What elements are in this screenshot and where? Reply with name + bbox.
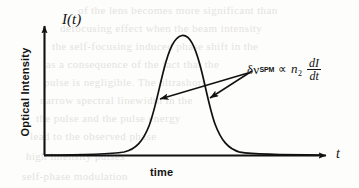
y-axis-symbol-label: I(t) xyxy=(62,11,81,28)
n2-term: n2 xyxy=(291,61,302,78)
delta-nu-symbol: δν xyxy=(247,62,259,78)
n-subscript: 2 xyxy=(298,69,302,78)
x-axis-symbol-label: t xyxy=(336,146,340,162)
annotation-arrow-left xyxy=(160,73,248,99)
pulse-curve xyxy=(46,35,322,155)
plot-graphics xyxy=(0,0,359,188)
fraction-denominator: dt xyxy=(307,70,320,82)
spm-formula-annotation: δνSPM ∝ n2 dI dt xyxy=(247,57,321,82)
proportional-symbol: ∝ xyxy=(278,62,287,77)
spm-subscript: SPM xyxy=(260,66,275,73)
derivative-fraction: dI dt xyxy=(307,57,321,82)
annotation-arrow-right xyxy=(210,71,252,98)
y-axis-title-label: Optical Intensity xyxy=(19,37,31,147)
fraction-numerator: dI xyxy=(307,57,321,69)
x-axis-title-label: time xyxy=(150,166,173,178)
n-symbol: n xyxy=(291,61,298,76)
figure-container: of the lens becomes more significant tha… xyxy=(0,0,359,188)
